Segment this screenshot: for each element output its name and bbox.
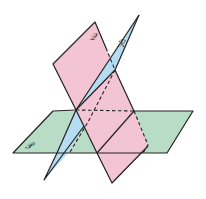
plane-p-edge-top-left [53, 110, 76, 111]
diagram-canvas: 𝒬 ℛ 𝒫 [0, 0, 206, 199]
plane-r-label: ℛ [117, 38, 126, 49]
three-planes-diagram: 𝒬 ℛ 𝒫 [0, 0, 206, 199]
